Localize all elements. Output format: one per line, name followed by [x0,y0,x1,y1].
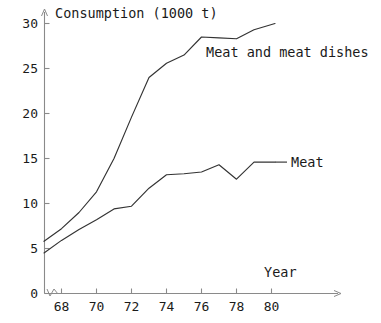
x-tick-label-72: 72 [124,299,140,314]
y-tick-label-0: 0 [30,286,38,301]
y-tick-label-25: 25 [22,61,38,76]
y-tick-label-5: 5 [30,241,38,256]
y-tick-label-10: 10 [22,196,38,211]
x-tick-label-74: 74 [159,299,175,314]
y-tick-label-20: 20 [22,106,38,121]
x-axis-title: Year [264,264,297,280]
x-tick-label-78: 78 [229,299,245,314]
axis-break-mark [47,289,58,296]
x-tick-label-80: 80 [264,299,280,314]
chart-figure: 0 5 10 15 20 25 30 68 70 72 74 76 78 80 … [0,0,381,323]
series-label-meat: Meat [291,154,324,170]
x-tick-label-76: 76 [194,299,210,314]
x-tick-label-68: 68 [54,299,70,314]
series-label-meat-and-meat-dishes: Meat and meat dishes [206,44,369,60]
y-tick-label-15: 15 [22,151,38,166]
x-tick-label-70: 70 [89,299,105,314]
line-chart-canvas: 0 5 10 15 20 25 30 68 70 72 74 76 78 80 … [0,0,381,323]
chart-title: Consumption (1000 t) [55,5,218,21]
y-tick-label-30: 30 [22,16,38,31]
series-line-meat [44,162,275,253]
